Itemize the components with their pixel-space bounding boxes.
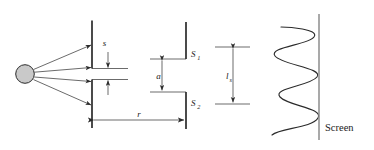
ray-3 xyxy=(34,77,91,82)
light-source-icon xyxy=(16,65,35,84)
ray-4 xyxy=(34,80,92,105)
barrier-distance-label: r xyxy=(137,109,141,119)
ray-1 xyxy=(34,45,92,70)
optics-diagram: s S 1 S 2 a l s r Screen xyxy=(0,0,374,150)
slit-one-label-group: S 1 xyxy=(191,49,200,61)
slit-two-label-group: S 2 xyxy=(191,98,200,110)
slit-one-subscript: 1 xyxy=(197,54,200,61)
slit-separation-label: a xyxy=(156,71,161,81)
diagram-canvas: s S 1 S 2 a l s r Screen xyxy=(0,0,374,150)
ray-bundle xyxy=(34,45,92,105)
slit-two-subscript: 2 xyxy=(197,103,200,110)
slit-width-label: s xyxy=(103,38,107,48)
interference-wave xyxy=(272,27,319,135)
slit-one-label: S xyxy=(191,49,196,59)
fringe-spacing-subscript: s xyxy=(229,76,232,83)
screen-label: Screen xyxy=(325,122,354,133)
fringe-spacing-label-group: l s xyxy=(226,71,232,83)
slit-two-label: S xyxy=(191,98,196,108)
ray-2 xyxy=(34,68,91,73)
